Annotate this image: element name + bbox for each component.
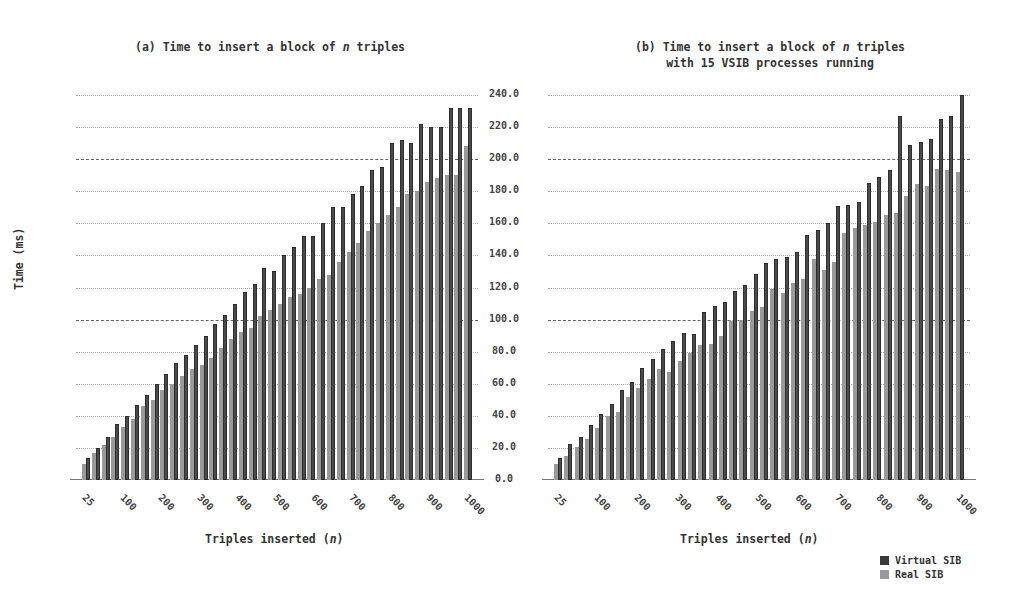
- chart-b-x-axis-label: Triples inserted (n): [680, 532, 819, 546]
- x-tick-label: 400: [233, 492, 254, 513]
- bar-virtual-sib: [174, 363, 178, 480]
- bar-virtual-sib: [661, 349, 665, 480]
- chart-a-title: (a) Time to insert a block of n triples: [90, 39, 450, 55]
- bar-virtual-sib: [579, 437, 583, 480]
- legend-swatch-virtual: [880, 556, 889, 565]
- gridline: [76, 95, 478, 96]
- bar-virtual-sib: [409, 143, 413, 480]
- bar-virtual-sib: [630, 382, 634, 480]
- y-tick-label: 180.0: [474, 184, 534, 195]
- bar-virtual-sib: [360, 186, 364, 480]
- bar-virtual-sib: [233, 304, 237, 480]
- bar-virtual-sib: [184, 355, 188, 480]
- title-text: (a) Time to insert a block of: [135, 40, 343, 54]
- bar-virtual-sib: [370, 170, 374, 480]
- bar-virtual-sib: [733, 291, 737, 480]
- bar-virtual-sib: [155, 384, 159, 480]
- gridline: [548, 95, 970, 96]
- x-tick-label: 600: [309, 492, 330, 513]
- xlabel-text: Triples inserted (: [680, 532, 805, 546]
- x-tick-label: 500: [271, 492, 292, 513]
- bar-virtual-sib: [898, 116, 902, 480]
- legend-label-virtual: Virtual SIB: [895, 555, 961, 566]
- bar-virtual-sib: [321, 223, 325, 480]
- bar-virtual-sib: [341, 207, 345, 480]
- bar-virtual-sib: [243, 292, 247, 480]
- bar-virtual-sib: [877, 177, 881, 480]
- legend-swatch-real: [880, 570, 889, 579]
- y-tick-label: 140.0: [474, 248, 534, 259]
- gridline: [548, 159, 970, 160]
- title-line2: with 15 VSIB processes running: [570, 55, 970, 71]
- title-text: (b) Time to insert a block of: [635, 40, 843, 54]
- bar-virtual-sib: [439, 127, 443, 480]
- bar-virtual-sib: [774, 259, 778, 480]
- bar-virtual-sib: [702, 312, 706, 480]
- bar-virtual-sib: [282, 255, 286, 480]
- title-var: n: [343, 40, 350, 54]
- bar-virtual-sib: [223, 315, 227, 480]
- y-axis-label: Time (ms): [12, 228, 26, 290]
- bar-virtual-sib: [960, 95, 964, 480]
- x-tick-label: 900: [914, 492, 935, 513]
- bar-virtual-sib: [805, 235, 809, 480]
- x-tick-label: 200: [633, 492, 654, 513]
- bar-virtual-sib: [86, 458, 90, 480]
- y-tick-label: 160.0: [474, 216, 534, 227]
- x-tick-label: 600: [793, 492, 814, 513]
- legend-item-virtual: Virtual SIB: [880, 553, 961, 567]
- x-tick-label: 25: [80, 492, 96, 508]
- bar-virtual-sib: [949, 116, 953, 480]
- x-tick-label: 100: [118, 492, 139, 513]
- legend-label-real: Real SIB: [895, 569, 943, 580]
- y-tick-label: 40.0: [474, 409, 534, 420]
- bar-virtual-sib: [331, 207, 335, 480]
- bar-virtual-sib: [213, 324, 217, 480]
- y-tick-label: 120.0: [474, 281, 534, 292]
- bar-virtual-sib: [589, 425, 593, 480]
- bar-virtual-sib: [620, 390, 624, 480]
- legend: Virtual SIB Real SIB: [880, 553, 961, 581]
- x-tick-label: 300: [195, 492, 216, 513]
- x-tick-label: 1000: [954, 492, 979, 517]
- gridline: [548, 191, 970, 192]
- y-tick-label: 80.0: [474, 345, 534, 356]
- bar-virtual-sib: [640, 368, 644, 480]
- bar-virtual-sib: [785, 257, 789, 480]
- bar-virtual-sib: [743, 285, 747, 480]
- bar-virtual-sib: [836, 206, 840, 480]
- bar-virtual-sib: [558, 458, 562, 480]
- bar-virtual-sib: [795, 252, 799, 480]
- bar-virtual-sib: [106, 437, 110, 480]
- bar-virtual-sib: [651, 359, 655, 480]
- x-tick-label: 300: [673, 492, 694, 513]
- bar-virtual-sib: [204, 336, 208, 480]
- bar-virtual-sib: [380, 167, 384, 480]
- bar-virtual-sib: [351, 194, 355, 480]
- bar-virtual-sib: [96, 448, 100, 480]
- y-tick-label: 200.0: [474, 152, 534, 163]
- x-tick-label: 25: [552, 492, 568, 508]
- y-tick-label: 240.0: [474, 88, 534, 99]
- bar-virtual-sib: [929, 139, 933, 480]
- bar-virtual-sib: [857, 202, 861, 480]
- x-tick-label: 700: [348, 492, 369, 513]
- x-tick-label: 400: [713, 492, 734, 513]
- x-tick-label: 1000: [462, 492, 487, 517]
- xlabel-text: ): [812, 532, 819, 546]
- y-tick-label: 220.0: [474, 120, 534, 131]
- bar-virtual-sib: [311, 236, 315, 480]
- title-text: triples: [850, 40, 905, 54]
- xlabel-text: Triples inserted (: [205, 532, 330, 546]
- y-tick-label: 20.0: [474, 441, 534, 452]
- x-tick-label: 800: [386, 492, 407, 513]
- chart-a-x-axis-label: Triples inserted (n): [205, 532, 344, 546]
- x-tick-label: 500: [753, 492, 774, 513]
- bar-virtual-sib: [568, 444, 572, 480]
- y-tick-label: 100.0: [474, 313, 534, 324]
- bar-virtual-sib: [115, 424, 119, 480]
- title-var: n: [843, 40, 850, 54]
- bar-virtual-sib: [272, 271, 276, 480]
- bar-virtual-sib: [145, 395, 149, 480]
- bar-virtual-sib: [671, 341, 675, 480]
